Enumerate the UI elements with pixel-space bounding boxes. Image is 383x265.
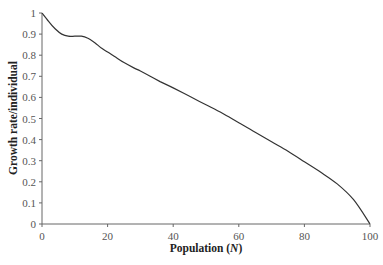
y-tick-label: 0	[31, 218, 37, 230]
x-tick-label: 60	[233, 230, 245, 242]
x-tick-label: 40	[168, 230, 180, 242]
x-tick-label: 0	[39, 230, 45, 242]
growth-rate-chart: 00.10.20.30.40.50.60.70.80.91 0204060801…	[0, 0, 383, 265]
y-tick-label: 0.8	[22, 49, 36, 61]
y-tick-label: 0.3	[22, 155, 36, 167]
y-tick-label: 0.9	[22, 28, 36, 40]
y-axis-title: Growth rate/individual	[7, 61, 19, 175]
x-tick-label: 100	[362, 230, 379, 242]
y-tick-label: 0.5	[22, 113, 36, 125]
x-axis-ticks: 020406080100	[39, 224, 379, 242]
x-tick-label: 20	[102, 230, 114, 242]
x-tick-label: 80	[299, 230, 311, 242]
y-tick-label: 0.6	[22, 91, 36, 103]
plot-area: 00.10.20.30.40.50.60.70.80.91 0204060801…	[22, 7, 379, 242]
y-tick-label: 1	[31, 7, 37, 19]
y-axis-ticks: 00.10.20.30.40.50.60.70.80.91	[22, 7, 42, 230]
y-tick-label: 0.7	[22, 70, 36, 82]
y-tick-label: 0.4	[22, 134, 36, 146]
x-axis-title: Population (N)	[170, 242, 243, 255]
y-tick-label: 0.1	[22, 197, 36, 209]
growth-rate-line	[42, 13, 370, 224]
y-tick-label: 0.2	[22, 176, 36, 188]
